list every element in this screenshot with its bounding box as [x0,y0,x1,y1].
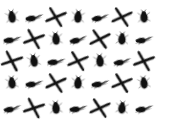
sprite-row [1,6,171,28]
sprite-canvas [0,0,171,127]
beetle-silhouette-icon [133,6,155,28]
fly-silhouette-icon [89,72,111,94]
fly-silhouette-icon [67,28,89,50]
beetle-silhouette-icon [111,97,133,119]
crane-fly-cross-silhouette-icon [111,72,133,94]
fly-silhouette-icon [1,28,23,50]
fly-silhouette-icon [23,72,45,94]
sprite-row [1,97,171,119]
sprite-grid [0,0,171,127]
crane-fly-cross-silhouette-icon [111,6,133,28]
beetle-silhouette-icon [67,72,89,94]
beetle-silhouette-icon [1,72,23,94]
fly-silhouette-icon [67,97,89,119]
crane-fly-cross-silhouette-icon [45,72,67,94]
beetle-silhouette-icon [45,97,67,119]
fly-silhouette-icon [133,97,155,119]
crane-fly-cross-silhouette-icon [45,6,67,28]
fly-silhouette-icon [133,28,155,50]
beetle-silhouette-icon [1,6,23,28]
fly-silhouette-icon [89,6,111,28]
crane-fly-cross-silhouette-icon [23,97,45,119]
sprite-row [1,72,171,94]
crane-fly-cross-silhouette-icon [23,28,45,50]
beetle-silhouette-icon [111,28,133,50]
fly-silhouette-icon [1,97,23,119]
sprite-row [1,50,171,72]
crane-fly-cross-silhouette-icon [89,97,111,119]
fly-silhouette-icon [111,50,133,72]
beetle-silhouette-icon [89,50,111,72]
beetle-silhouette-icon [23,50,45,72]
sprite-row [1,28,171,50]
fly-silhouette-icon [23,6,45,28]
crane-fly-cross-silhouette-icon [89,28,111,50]
beetle-silhouette-icon [67,6,89,28]
crane-fly-cross-silhouette-icon [1,50,23,72]
beetle-silhouette-icon [133,72,155,94]
beetle-silhouette-icon [45,28,67,50]
crane-fly-cross-silhouette-icon [67,50,89,72]
crane-fly-cross-silhouette-icon [133,50,155,72]
